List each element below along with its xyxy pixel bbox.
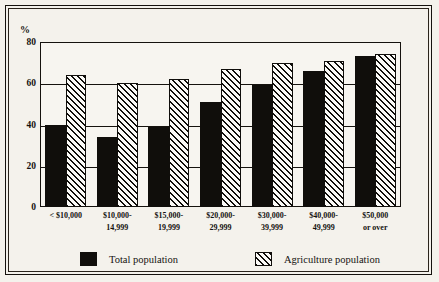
bar-group — [200, 42, 241, 207]
x-tick-label-line2: or over — [349, 222, 401, 234]
bar-agriculture — [169, 79, 190, 207]
x-tick-label-line1: $20,000- — [206, 211, 235, 220]
x-tick-label-line2: 39,999 — [246, 222, 298, 234]
x-tick-label-line2: 19,999 — [143, 222, 195, 234]
x-tick-label: < $10,000 — [40, 210, 92, 222]
bar-total — [148, 127, 169, 207]
legend-label: Total population — [109, 254, 178, 265]
bar-series-container — [40, 42, 401, 207]
x-tick-label: $10,000-14,999 — [92, 210, 144, 233]
hatched-swatch — [255, 252, 272, 266]
y-tick-label-20: 20 — [2, 161, 36, 171]
bar-total — [45, 125, 66, 208]
bar-group — [303, 42, 344, 207]
x-tick-label: $40,000-49,999 — [298, 210, 350, 233]
bar-group — [97, 42, 138, 207]
x-tick-label-line2: 49,999 — [298, 222, 350, 234]
legend-label: Agriculture population — [284, 254, 380, 265]
x-tick-label: $20,000-29,999 — [195, 210, 247, 233]
x-tick-label-line2: 29,999 — [195, 222, 247, 234]
chart-figure: % 020406080 < $10,000$10,000-14,999$15,0… — [0, 0, 439, 282]
x-tick-label-line1: $10,000- — [103, 211, 132, 220]
bar-total — [355, 56, 376, 207]
bar-agriculture — [117, 83, 138, 207]
x-tick-label-line1: $50,000 — [362, 211, 388, 220]
bar-group — [148, 42, 189, 207]
chart-legend: Total populationAgriculture population — [40, 250, 410, 270]
solid-black-swatch — [80, 252, 97, 266]
bar-group — [252, 42, 293, 207]
y-axis-unit-label: % — [20, 24, 30, 35]
y-axis: 020406080 — [0, 42, 36, 207]
x-tick-label: $50,000or over — [349, 210, 401, 233]
bar-group — [355, 42, 396, 207]
x-tick-label-line1: $40,000- — [309, 211, 338, 220]
x-tick-label-line1: < $10,000 — [50, 211, 83, 220]
bar-total — [252, 85, 273, 207]
y-tick-label-80: 80 — [2, 37, 36, 47]
bar-group — [45, 42, 86, 207]
x-tick-label-line1: $30,000- — [258, 211, 287, 220]
x-tick-label-line2: 14,999 — [92, 222, 144, 234]
legend-item: Agriculture population — [255, 250, 380, 268]
bar-total — [97, 137, 118, 207]
bar-agriculture — [221, 69, 242, 207]
bar-agriculture — [272, 63, 293, 207]
x-tick-label-line1: $15,000- — [155, 211, 184, 220]
y-tick-label-40: 40 — [2, 120, 36, 130]
bar-agriculture — [375, 54, 396, 207]
bar-agriculture — [324, 61, 345, 207]
legend-item: Total population — [80, 250, 178, 268]
x-tick-label: $30,000-39,999 — [246, 210, 298, 233]
y-tick-label-60: 60 — [2, 78, 36, 88]
x-axis-labels: < $10,000$10,000-14,999$15,000-19,999$20… — [40, 210, 401, 244]
x-tick-label: $15,000-19,999 — [143, 210, 195, 233]
bar-total — [303, 71, 324, 207]
y-tick-label-0: 0 — [2, 202, 36, 212]
bar-agriculture — [66, 75, 87, 207]
bar-total — [200, 102, 221, 207]
